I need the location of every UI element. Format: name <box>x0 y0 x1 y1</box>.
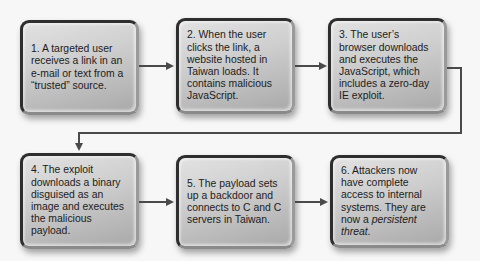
step-1-text: 1. A targeted user receives a link in an… <box>31 43 130 92</box>
arrow-right-icon <box>320 198 328 206</box>
arrow-down-icon <box>75 143 83 151</box>
connector-2-3 <box>295 65 320 67</box>
arrow-right-icon <box>166 198 174 206</box>
connector-1-2 <box>139 65 167 67</box>
connector-4-5 <box>139 201 167 203</box>
step-1-box: 1. A targeted user receives a link in an… <box>20 20 139 115</box>
step-5-box: 5. The payload sets up a backdoor and co… <box>176 155 295 249</box>
connector-5-6 <box>295 201 321 203</box>
step-4-box: 4. The exploit downloads a binary disgui… <box>20 153 139 249</box>
step-2-text: 2. When the user clicks the link, a webs… <box>187 29 286 102</box>
step-2-box: 2. When the user clicks the link, a webs… <box>176 18 295 114</box>
arrow-right-icon <box>319 62 327 70</box>
step-3-text: 3. The user’s browser downloads and exec… <box>339 29 438 102</box>
connector-3-4-across <box>78 132 462 134</box>
step-5-text: 5. The payload sets up a backdoor and co… <box>187 178 286 227</box>
step-6-text: 6. Attackers now have complete access to… <box>341 165 440 238</box>
connector-3-4-down <box>460 67 462 134</box>
arrow-right-icon <box>166 62 174 70</box>
step-4-text: 4. The exploit downloads a binary disgui… <box>31 164 130 237</box>
step-6-box: 6. Attackers now have complete access to… <box>330 155 449 248</box>
step-3-box: 3. The user’s browser downloads and exec… <box>328 18 447 114</box>
